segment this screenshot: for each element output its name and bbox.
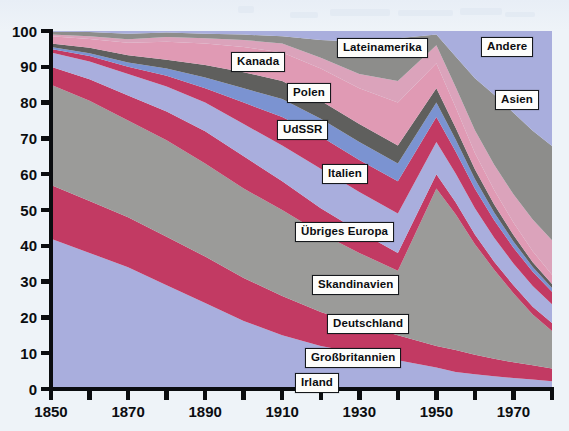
x-tick-label: 1950 xyxy=(420,403,453,420)
y-tick-label: 90 xyxy=(20,58,37,75)
x-tick-label: 1850 xyxy=(34,403,67,420)
band-label-irland: Irland xyxy=(295,373,339,393)
band-label-deutschland: Deutschland xyxy=(327,314,409,334)
band-label-italien: Italien xyxy=(322,164,368,184)
band-label-udssr: UdSSR xyxy=(277,120,328,140)
y-tick-label: 30 xyxy=(20,273,37,290)
x-tick-label: 1930 xyxy=(343,403,376,420)
band-label-asien: Asien xyxy=(495,90,539,110)
band-label-kanada: Kanada xyxy=(231,52,285,72)
y-tick-label: 100 xyxy=(12,23,37,40)
y-tick-label: 50 xyxy=(20,202,37,219)
band-label--briges-europa: Übriges Europa xyxy=(295,222,394,242)
y-tick-label: 40 xyxy=(20,237,37,254)
y-tick-label: 20 xyxy=(20,309,37,326)
y-tick-label: 80 xyxy=(20,94,37,111)
band-label-polen: Polen xyxy=(287,83,331,103)
x-tick-label: 1970 xyxy=(497,403,530,420)
y-tick-label: 70 xyxy=(20,130,37,147)
band-label-skandinavien: Skandinavien xyxy=(312,275,399,295)
y-tick-label: 60 xyxy=(20,166,37,183)
stacked-area-chart: 0102030405060708090100185018701890191019… xyxy=(0,0,569,431)
band-label-lateinamerika: Lateinamerika xyxy=(337,38,428,58)
band-label-gro-britannien: Großbritannien xyxy=(305,348,401,368)
x-tick-label: 1910 xyxy=(266,403,299,420)
x-tick-label: 1890 xyxy=(188,403,221,420)
x-tick-label: 1870 xyxy=(111,403,144,420)
band-label-andere: Andere xyxy=(481,37,533,57)
y-tick-label: 0 xyxy=(29,381,37,398)
y-tick-label: 10 xyxy=(20,345,37,362)
